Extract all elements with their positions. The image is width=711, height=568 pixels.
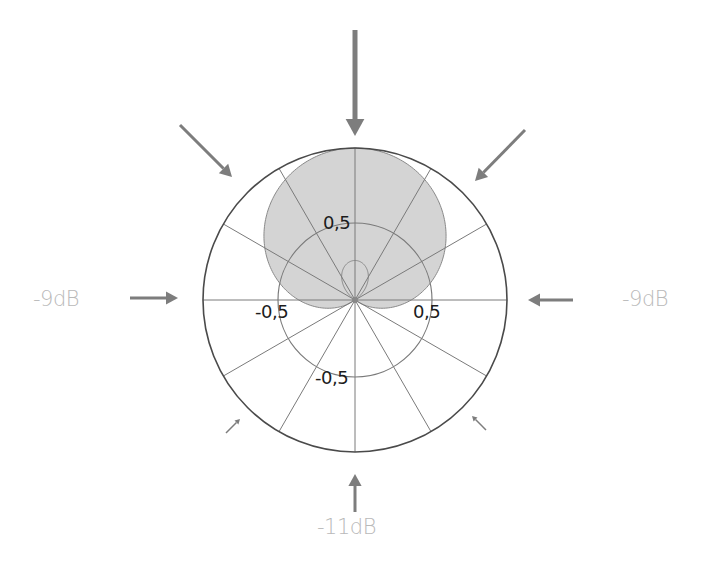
polar-pattern-diagram: 0,5 -0,5 0,5 -0,5 -9dB -9dB -11dB <box>0 0 711 568</box>
axis-label-bottom: -0,5 <box>315 367 348 388</box>
arrow-rear-right-135deg-icon <box>472 416 486 430</box>
axis-label-right: 0,5 <box>413 301 440 322</box>
axis-label-top: 0,5 <box>323 212 350 233</box>
polar-plot <box>0 0 711 568</box>
arrow-left-90deg-icon <box>130 291 178 304</box>
arrow-right-90deg-icon <box>528 293 573 306</box>
arrow-front-left-45deg-icon <box>180 125 232 177</box>
db-label-right: -9dB <box>622 287 668 311</box>
arrow-rear-left-135deg-icon <box>226 419 240 433</box>
db-label-left: -9dB <box>33 287 79 311</box>
arrow-rear-180deg-icon <box>348 474 361 512</box>
arrow-front-right-45deg-icon <box>475 130 525 181</box>
arrow-front-0deg-icon <box>346 30 365 136</box>
axis-label-left: -0,5 <box>255 301 288 322</box>
polar-grid <box>203 148 507 452</box>
center-dot <box>352 297 358 303</box>
db-label-rear: -11dB <box>317 515 376 539</box>
